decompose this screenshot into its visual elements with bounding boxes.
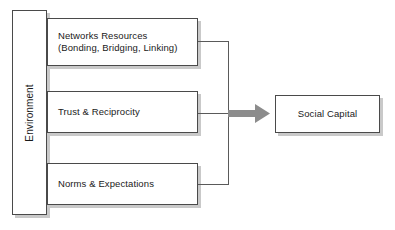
outcome-box-social-capital: Social Capital bbox=[275, 95, 380, 133]
right-arrow-icon bbox=[228, 104, 270, 123]
driver-label-networks-resources: Networks Resources (Bonding, Bridging, L… bbox=[58, 30, 178, 54]
driver-box-trust-reciprocity: Trust & Reciprocity bbox=[47, 91, 198, 133]
driver-box-networks-resources: Networks Resources (Bonding, Bridging, L… bbox=[47, 18, 198, 66]
connector-line-norms-expectations bbox=[198, 184, 228, 185]
environment-box: Environment bbox=[12, 10, 47, 215]
outcome-label-social-capital: Social Capital bbox=[276, 108, 379, 120]
environment-label: Environment bbox=[24, 84, 36, 141]
driver-label-norms-expectations: Norms & Expectations bbox=[58, 178, 154, 190]
driver-box-norms-expectations: Norms & Expectations bbox=[47, 163, 198, 205]
connector-line-networks-resources bbox=[198, 41, 228, 42]
driver-label-trust-reciprocity: Trust & Reciprocity bbox=[58, 106, 140, 118]
diagram-canvas: Environment Networks Resources (Bonding,… bbox=[0, 0, 395, 230]
connector-line-trust-reciprocity bbox=[198, 113, 228, 114]
